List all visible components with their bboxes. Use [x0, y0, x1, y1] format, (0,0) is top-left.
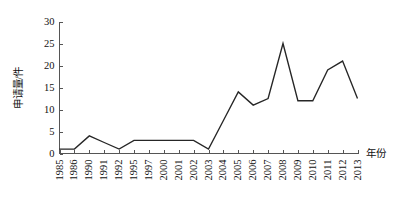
x-tick-label: 2002	[188, 160, 199, 181]
x-tick-label: 2011	[322, 160, 333, 181]
x-tick-label: 2012	[337, 160, 348, 181]
x-tick-label: 1991	[98, 160, 109, 181]
x-tick-label: 2003	[203, 160, 214, 181]
y-tick-label: 0	[49, 148, 54, 159]
x-tick-label: 2001	[173, 160, 184, 181]
x-axis-ticks	[61, 150, 359, 154]
x-tick-label: 2008	[277, 160, 288, 181]
x-axis-title: 年份	[366, 147, 387, 159]
x-tick-label: 2013	[352, 160, 363, 181]
chart-canvas: 051015202530 198519861990199119921995199…	[0, 0, 416, 215]
y-tick-label: 25	[44, 38, 55, 49]
y-axis-tick-labels: 051015202530	[44, 16, 55, 159]
x-tick-label: 2006	[247, 160, 258, 181]
y-tick-label: 10	[44, 104, 55, 115]
x-tick-label: 2009	[292, 160, 303, 181]
y-axis-ticks	[60, 23, 64, 155]
x-tick-label: 2010	[307, 160, 318, 181]
series-line-application-volume	[60, 44, 358, 150]
x-tick-label: 1985	[54, 160, 65, 181]
x-tick-label: 2007	[262, 160, 273, 181]
line-chart: 051015202530 198519861990199119921995199…	[0, 0, 416, 215]
y-tick-label: 20	[44, 60, 55, 71]
x-tick-label: 2000	[158, 160, 169, 181]
y-tick-label: 5	[49, 126, 54, 137]
x-tick-label: 1992	[113, 160, 124, 181]
x-tick-label: 2004	[217, 159, 228, 181]
x-tick-label: 1995	[128, 160, 139, 181]
x-tick-label: 2005	[232, 160, 243, 181]
y-tick-label: 15	[44, 82, 55, 93]
x-tick-label: 1997	[143, 160, 154, 181]
x-axis-tick-labels: 1985198619901991199219951997200020012002…	[54, 159, 363, 181]
y-tick-label: 30	[44, 16, 55, 27]
x-tick-label: 1986	[68, 160, 79, 181]
x-tick-label: 1990	[83, 160, 94, 181]
y-axis-title: 申请量/件	[12, 67, 24, 110]
